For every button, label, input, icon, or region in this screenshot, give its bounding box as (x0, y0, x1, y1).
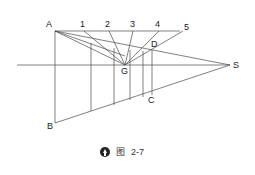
label-c: C (148, 96, 155, 105)
label-b: B (47, 122, 53, 131)
label-a: A (46, 20, 52, 29)
label-5: 5 (184, 23, 189, 32)
line-a-s (55, 31, 230, 65)
label-d: D (151, 40, 158, 49)
label-g: G (121, 67, 128, 76)
line-b-s (55, 65, 230, 123)
ray-3-g (125, 31, 133, 65)
label-s: S (233, 61, 239, 70)
label-1: 1 (80, 20, 85, 29)
label-3: 3 (130, 20, 135, 29)
label-4: 4 (155, 20, 160, 29)
label-2: 2 (105, 20, 110, 29)
figure-number: 2-7 (131, 147, 144, 157)
figure-caption: 图 2-7 (100, 145, 144, 158)
figure-word: 图 (116, 145, 125, 158)
up-arrow-circle-icon (100, 147, 110, 157)
ray-2-g (109, 31, 125, 65)
